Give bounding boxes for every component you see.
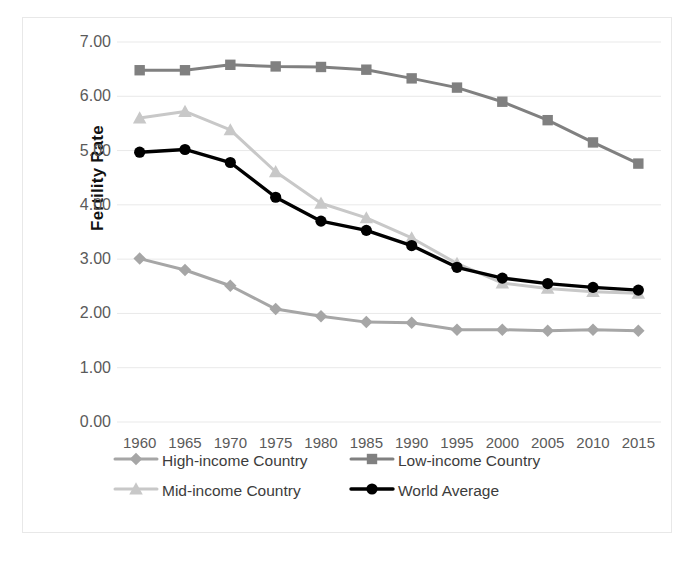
- chart-container: Fertility Rate 0.001.002.003.004.005.006…: [22, 17, 672, 533]
- chart-legend: High-income Country Low-income Country M…: [113, 450, 583, 510]
- data-point-marker: [270, 61, 280, 71]
- data-point-marker: [315, 310, 328, 323]
- data-point-marker: [633, 158, 643, 168]
- plot-area: Fertility Rate 0.001.002.003.004.005.006…: [23, 18, 673, 534]
- data-point-marker: [224, 279, 237, 292]
- data-point-marker: [225, 60, 235, 70]
- legend-row: High-income Country Low-income Country: [113, 450, 583, 472]
- circle-marker-icon: [349, 480, 395, 502]
- series-line: [140, 259, 639, 331]
- data-point-marker: [542, 115, 552, 125]
- series-line: [140, 111, 639, 293]
- data-point-marker: [632, 325, 645, 338]
- legend-item-world-average[interactable]: World Average: [349, 480, 499, 502]
- data-point-marker: [587, 282, 598, 293]
- square-marker-icon: [349, 450, 395, 472]
- data-point-marker: [225, 157, 236, 168]
- data-point-marker: [451, 323, 464, 336]
- legend-label: High-income Country: [162, 452, 308, 470]
- legend-row: Mid-income Country World Average: [113, 480, 583, 502]
- series-line: [140, 149, 639, 290]
- legend-item-low-income[interactable]: Low-income Country: [349, 450, 540, 472]
- data-point-marker: [179, 264, 192, 277]
- data-point-marker: [451, 262, 462, 273]
- data-point-marker: [180, 65, 190, 75]
- data-point-marker: [360, 316, 373, 329]
- legend-label: Low-income Country: [398, 452, 540, 470]
- data-point-marker: [588, 137, 598, 147]
- data-point-marker: [496, 323, 509, 336]
- data-point-marker: [361, 225, 372, 236]
- legend-label: World Average: [398, 482, 499, 500]
- data-point-marker: [179, 144, 190, 155]
- data-point-marker: [406, 73, 416, 83]
- data-point-marker: [497, 273, 508, 284]
- data-point-marker: [452, 82, 462, 92]
- data-point-marker: [542, 278, 553, 289]
- data-point-marker: [270, 192, 281, 203]
- data-point-marker: [134, 147, 145, 158]
- data-point-marker: [130, 453, 143, 466]
- data-point-marker: [541, 325, 554, 338]
- diamond-marker-icon: [113, 450, 159, 472]
- data-point-marker: [315, 216, 326, 227]
- data-point-marker: [406, 240, 417, 251]
- data-point-marker: [633, 284, 644, 295]
- data-point-marker: [367, 454, 377, 464]
- data-point-marker: [366, 483, 377, 494]
- data-point-marker: [587, 323, 600, 336]
- data-point-marker: [133, 252, 146, 265]
- data-point-marker: [134, 65, 144, 75]
- data-point-marker: [405, 316, 418, 329]
- series-line: [140, 65, 639, 164]
- legend-item-high-income[interactable]: High-income Country: [113, 450, 349, 472]
- legend-item-mid-income[interactable]: Mid-income Country: [113, 480, 349, 502]
- data-point-marker: [361, 64, 371, 74]
- legend-label: Mid-income Country: [162, 482, 301, 500]
- data-point-marker: [316, 62, 326, 72]
- triangle-marker-icon: [113, 480, 159, 502]
- data-point-marker: [497, 97, 507, 107]
